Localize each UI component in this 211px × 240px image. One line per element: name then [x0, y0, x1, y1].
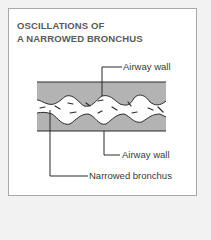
label-narrowed-bronchus: Narrowed bronchus	[89, 170, 172, 181]
label-airway-wall-top: Airway wall	[123, 61, 171, 72]
airway-wall-bottom	[37, 112, 166, 131]
label-airway-wall-bottom: Airway wall	[122, 149, 170, 160]
